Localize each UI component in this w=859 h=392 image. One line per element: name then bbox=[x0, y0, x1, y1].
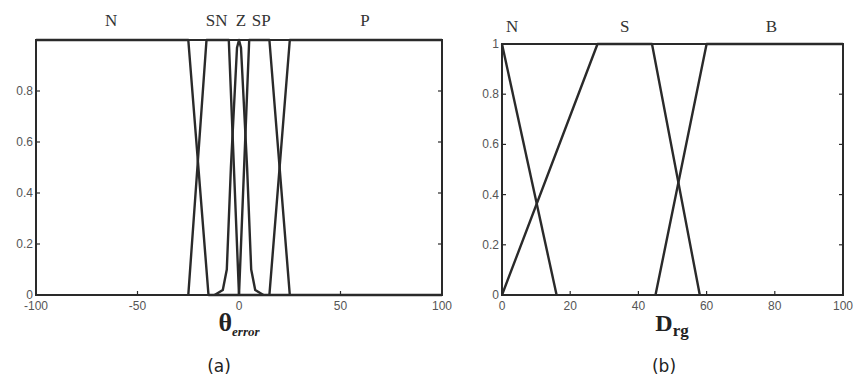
x-tick-label: 80 bbox=[768, 299, 782, 313]
membership-curve-n bbox=[502, 44, 557, 295]
membership-label-sp: SP bbox=[252, 11, 271, 30]
x-tick-label: 40 bbox=[632, 299, 646, 313]
x-tick-label: 20 bbox=[564, 299, 578, 313]
chart-panel-a: NSNZSPP-100-5005010000.20.40.60.8θerror(… bbox=[16, 11, 452, 376]
x-tick-label: 60 bbox=[700, 299, 714, 313]
x-tick-label: 50 bbox=[334, 299, 348, 313]
y-tick-label: 0.8 bbox=[16, 84, 33, 98]
membership-curve-b bbox=[656, 44, 844, 295]
membership-label-s: S bbox=[620, 17, 629, 36]
x-tick-label: 0 bbox=[236, 299, 243, 313]
membership-label-b: B bbox=[766, 17, 777, 36]
y-tick-label: 0.2 bbox=[16, 237, 33, 251]
membership-label-p: P bbox=[360, 11, 369, 30]
y-tick-label: 0.6 bbox=[16, 135, 33, 149]
membership-label-sn: SN bbox=[206, 11, 228, 30]
y-tick-label: 0.4 bbox=[16, 186, 33, 200]
x-tick-label: 100 bbox=[833, 299, 853, 313]
panel-caption: (b) bbox=[652, 356, 676, 376]
y-tick-label: 0 bbox=[492, 288, 499, 302]
y-tick-label: 0.8 bbox=[482, 87, 499, 101]
membership-curve-s bbox=[502, 44, 700, 295]
x-tick-label: -50 bbox=[129, 299, 147, 313]
plot-frame bbox=[502, 44, 843, 295]
x-axis-title: Drg bbox=[655, 310, 689, 340]
membership-curve-z bbox=[215, 40, 264, 295]
x-tick-label: 100 bbox=[432, 299, 452, 313]
y-tick-label: 1 bbox=[492, 37, 499, 51]
panel-caption: (a) bbox=[207, 356, 231, 376]
membership-curve-p bbox=[269, 40, 442, 295]
membership-label-z: Z bbox=[236, 11, 246, 30]
membership-curve-n bbox=[36, 40, 442, 295]
chart-panel-b: NSB02040608010000.20.40.60.81Drg(b) bbox=[482, 17, 853, 376]
membership-label-n: N bbox=[105, 11, 117, 30]
y-tick-label: 0.2 bbox=[482, 238, 499, 252]
plot-frame bbox=[36, 40, 442, 295]
membership-label-n: N bbox=[506, 17, 518, 36]
y-tick-label: 0 bbox=[26, 288, 33, 302]
y-tick-label: 0.6 bbox=[482, 137, 499, 151]
x-tick-label: 0 bbox=[499, 299, 506, 313]
figure: NSNZSPP-100-5005010000.20.40.60.8θerror(… bbox=[0, 0, 859, 392]
y-tick-label: 0.4 bbox=[482, 188, 499, 202]
